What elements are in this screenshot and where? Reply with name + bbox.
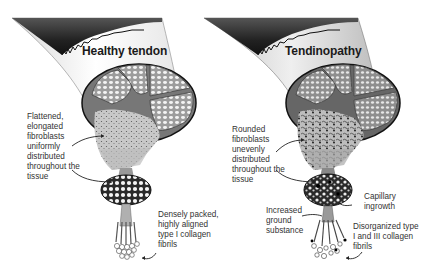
healthy-tendon-title: Healthy tendon [82,44,167,58]
capillary-ingrowth-label: Capillary ingrowth [364,192,396,212]
ground-substance-label: Increased ground substance [266,206,303,236]
tendon-comparison-diagram: Healthy tendon Flattened, elongated fibr… [0,0,426,270]
healthy-fibroblasts-label: Flattened, elongated fibroblasts uniform… [27,112,80,182]
healthy-collagen-fibrils-label: Densely packed, highly aligned type I co… [158,210,219,250]
tendinopathy-collagen-fibrils-label: Disorganized type I and III collagen fib… [353,222,419,252]
tendinopathy-fibroblasts-label: Rounded fibroblasts unevenly distributed… [232,125,285,185]
tendinopathy-title: Tendinopathy [285,44,362,58]
